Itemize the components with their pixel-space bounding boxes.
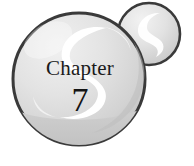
chapter-heading-graphic: Chapter 7: [0, 0, 194, 166]
large-sphere: [13, 13, 145, 146]
chapter-sphere-illustration: [0, 0, 194, 166]
